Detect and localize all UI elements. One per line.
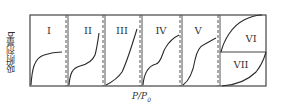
- curve-I: [31, 52, 62, 85]
- isotherm-diagram: I II III IV V VI VII: [0, 0, 282, 106]
- panel-label-II: II: [84, 25, 92, 36]
- curve-II: [69, 33, 99, 85]
- panel-labels: I II III IV V VI VII: [47, 25, 257, 70]
- panel-label-III: III: [116, 25, 128, 36]
- curve-V: [183, 38, 216, 85]
- frame: [30, 15, 266, 86]
- panel-label-VII: VII: [232, 59, 248, 70]
- curve-IV: [143, 35, 179, 85]
- panel-label-IV: IV: [155, 25, 167, 36]
- panel-label-VI: VI: [244, 33, 256, 44]
- panel-label-I: I: [47, 25, 51, 36]
- curve-III: [106, 29, 137, 85]
- panel-label-V: V: [193, 25, 202, 36]
